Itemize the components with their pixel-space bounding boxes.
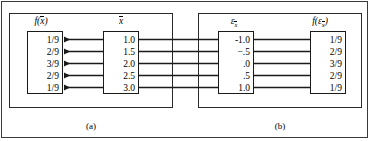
value-cell: 3/9 (311, 59, 345, 70)
value-cell: 2/9 (28, 71, 62, 82)
value-cell: 3/9 (28, 59, 62, 70)
value-cell: 1.5 (104, 47, 138, 58)
value-box-f-xbar: 1/9 2/9 3/9 2/9 1/9 (27, 31, 63, 94)
value-cell: 1/9 (28, 35, 62, 46)
value-cell: 1.0 (104, 35, 138, 46)
value-cell: −.5 (219, 47, 253, 58)
value-cell: 1.0 (219, 83, 253, 94)
value-cell: 1/9 (28, 83, 62, 94)
value-cell: .5 (219, 71, 253, 82)
value-box-epsilon-xbar: -1.0 −.5 .0 .5 1.0 (218, 31, 254, 94)
value-cell: 2/9 (311, 71, 345, 82)
value-box-f-epsilon-xbar: 1/9 2/9 3/9 2/9 1/9 (310, 31, 346, 94)
value-cell: 2/9 (311, 47, 345, 58)
value-box-xbar: 1.0 1.5 2.0 2.5 3.0 (103, 31, 139, 94)
value-cell: 1/9 (311, 83, 345, 94)
value-cell: .0 (219, 59, 253, 70)
value-cell: -1.0 (219, 35, 253, 46)
value-cell: 3.0 (104, 83, 138, 94)
value-cell: 2/9 (28, 47, 62, 58)
figure-container: f(x) x 1/9 2/9 3/9 2/9 1/9 1.0 1.5 2.0 2… (0, 0, 371, 141)
value-cell: 1/9 (311, 35, 345, 46)
value-cell: 2.5 (104, 71, 138, 82)
value-cell: 2.0 (104, 59, 138, 70)
